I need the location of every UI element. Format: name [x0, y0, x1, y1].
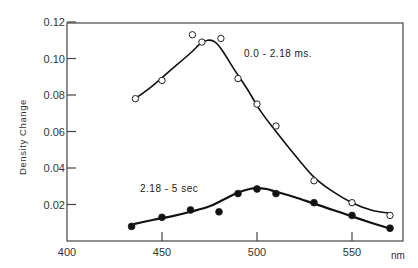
open-circle-point [218, 35, 224, 41]
filled-circle-point [349, 212, 356, 219]
y-tick-label: 0.10 [44, 53, 65, 65]
x-tick-label: 450 [153, 246, 171, 258]
filled-circle-point [128, 223, 135, 230]
annotation-open-series: 0.0 - 2.18 ms. [244, 48, 312, 59]
filled-circle-point [273, 190, 280, 197]
y-axis-label: Density Change [17, 99, 28, 175]
y-tick-label: 0.06 [44, 126, 65, 138]
x-axis-ticks: 400450500550 [58, 232, 361, 258]
open-circle-point [254, 101, 260, 107]
plot-frame [67, 23, 403, 241]
x-axis-unit-label: nm [391, 250, 405, 261]
y-tick-label: 0.04 [44, 162, 65, 174]
open-circle-point [189, 32, 195, 38]
y-tick-label: 0.08 [44, 89, 65, 101]
y-tick-label: 0.02 [44, 199, 65, 211]
open-circle-point [199, 39, 205, 45]
filled-circle-point [235, 190, 242, 197]
filled-circle-point [159, 214, 166, 221]
filled-circle-point [216, 208, 223, 215]
filled-circle-point [311, 199, 318, 206]
open-circle-point [159, 77, 165, 83]
open-circle-point [235, 75, 241, 81]
open-circle-point [311, 178, 317, 184]
open-circle-point [273, 123, 279, 129]
data-points [128, 32, 393, 232]
y-tick-label: 0.12 [44, 16, 65, 28]
filled-circle-point [254, 186, 261, 193]
filled-circle-point [187, 207, 194, 214]
open-circle-point [132, 95, 138, 101]
x-tick-label: 500 [248, 246, 266, 258]
fit-curve-filled-series [132, 188, 392, 229]
x-tick-label: 400 [58, 246, 76, 258]
annotation-filled-series: 2.18 - 5 sec [140, 183, 198, 194]
density-change-chart: 0.020.040.060.080.100.12 400450500550 De… [0, 0, 418, 268]
filled-circle-point [387, 225, 394, 232]
x-tick-label: 550 [343, 246, 361, 258]
open-circle-point [387, 212, 393, 218]
open-circle-point [349, 199, 355, 205]
y-axis-ticks: 0.020.040.060.080.100.12 [44, 16, 76, 211]
